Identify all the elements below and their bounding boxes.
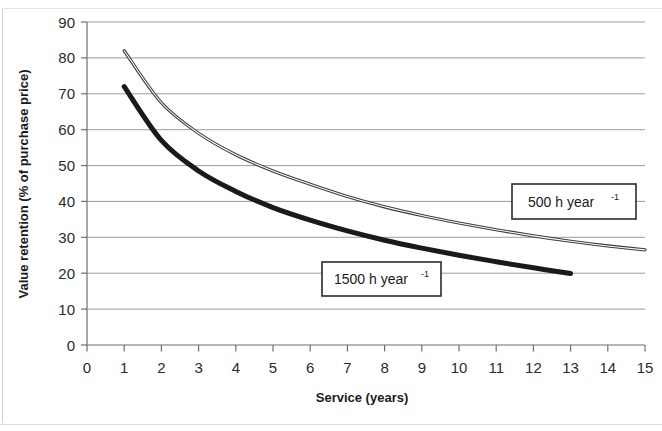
x-tick-label: 7 bbox=[343, 359, 351, 376]
figure-canvas: 90 80 70 60 50 40 30 20 10 0 0 1 2 3 4 5… bbox=[0, 0, 662, 431]
y-tick-label: 50 bbox=[58, 157, 75, 174]
x-tick-label: 12 bbox=[525, 359, 542, 376]
y-tick-labels: 90 80 70 60 50 40 30 20 10 0 bbox=[58, 14, 75, 354]
line-chart: 90 80 70 60 50 40 30 20 10 0 0 1 2 3 4 5… bbox=[0, 0, 662, 431]
y-tick-label: 60 bbox=[58, 121, 75, 138]
y-tick-label: 30 bbox=[58, 229, 75, 246]
callout-500h-exponent: -1 bbox=[611, 192, 619, 202]
series-line-500h-highlight bbox=[124, 51, 645, 250]
callout-1500h-exponent: -1 bbox=[421, 269, 429, 279]
callout-500h-label: 500 h year bbox=[528, 194, 594, 210]
x-tick-label: 11 bbox=[488, 359, 504, 376]
x-tick-label: 13 bbox=[562, 359, 579, 376]
x-tick-label: 0 bbox=[83, 359, 91, 376]
y-tick-label: 80 bbox=[58, 49, 75, 66]
x-tick-label: 10 bbox=[451, 359, 468, 376]
x-tick-label: 5 bbox=[269, 359, 277, 376]
x-tick-label: 2 bbox=[157, 359, 165, 376]
x-tick-label: 3 bbox=[194, 359, 202, 376]
callout-500h[interactable]: 500 h year -1 bbox=[512, 184, 636, 219]
y-axis-ticks bbox=[81, 22, 87, 345]
y-axis-title: Value retention (% of purchase price) bbox=[16, 70, 31, 299]
y-tick-label: 70 bbox=[58, 85, 75, 102]
x-axis-ticks bbox=[87, 345, 645, 352]
series-line-1500h bbox=[124, 87, 570, 274]
y-tick-label: 90 bbox=[58, 14, 75, 31]
y-tick-label: 20 bbox=[58, 265, 75, 282]
x-tick-label: 4 bbox=[232, 359, 240, 376]
callout-1500h-label: 1500 h year bbox=[334, 271, 408, 287]
callout-1500h[interactable]: 1500 h year -1 bbox=[322, 262, 441, 296]
x-tick-label: 15 bbox=[637, 359, 654, 376]
x-tick-label: 6 bbox=[306, 359, 314, 376]
series-group bbox=[124, 51, 645, 274]
x-tick-label: 8 bbox=[380, 359, 388, 376]
x-tick-label: 14 bbox=[599, 359, 616, 376]
x-tick-labels: 0 1 2 3 4 5 6 7 8 9 10 11 12 13 14 15 bbox=[83, 359, 654, 376]
y-tick-label: 40 bbox=[58, 193, 75, 210]
y-tick-label: 10 bbox=[58, 301, 75, 318]
x-tick-label: 1 bbox=[120, 359, 128, 376]
x-tick-label: 9 bbox=[418, 359, 426, 376]
series-line-500h bbox=[124, 51, 645, 250]
x-axis-title: Service (years) bbox=[316, 390, 409, 405]
y-tick-label: 0 bbox=[67, 337, 75, 354]
